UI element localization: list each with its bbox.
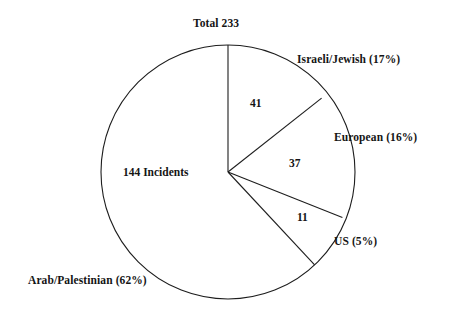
- chart-total-title: Total 233: [193, 18, 239, 30]
- pie-label-arab-palestinian: Arab/Palestinian (62%): [28, 275, 147, 287]
- pie-divider-european-us: [228, 172, 342, 217]
- pie-chart-figure: Total 233 Israeli/Jewish (17%) European …: [0, 0, 458, 317]
- pie-label-us: US (5%): [334, 236, 377, 248]
- pie-value-arab-palestinian: 144 Incidents: [123, 167, 189, 179]
- pie-value-european: 37: [289, 158, 301, 170]
- pie-value-israeli-jewish: 41: [250, 98, 262, 110]
- pie-divider-israeli-european: [228, 98, 322, 172]
- pie-chart-graphic: [0, 0, 458, 317]
- pie-value-us: 11: [297, 212, 308, 224]
- pie-label-european: European (16%): [334, 132, 417, 144]
- pie-label-israeli-jewish: Israeli/Jewish (17%): [297, 54, 400, 66]
